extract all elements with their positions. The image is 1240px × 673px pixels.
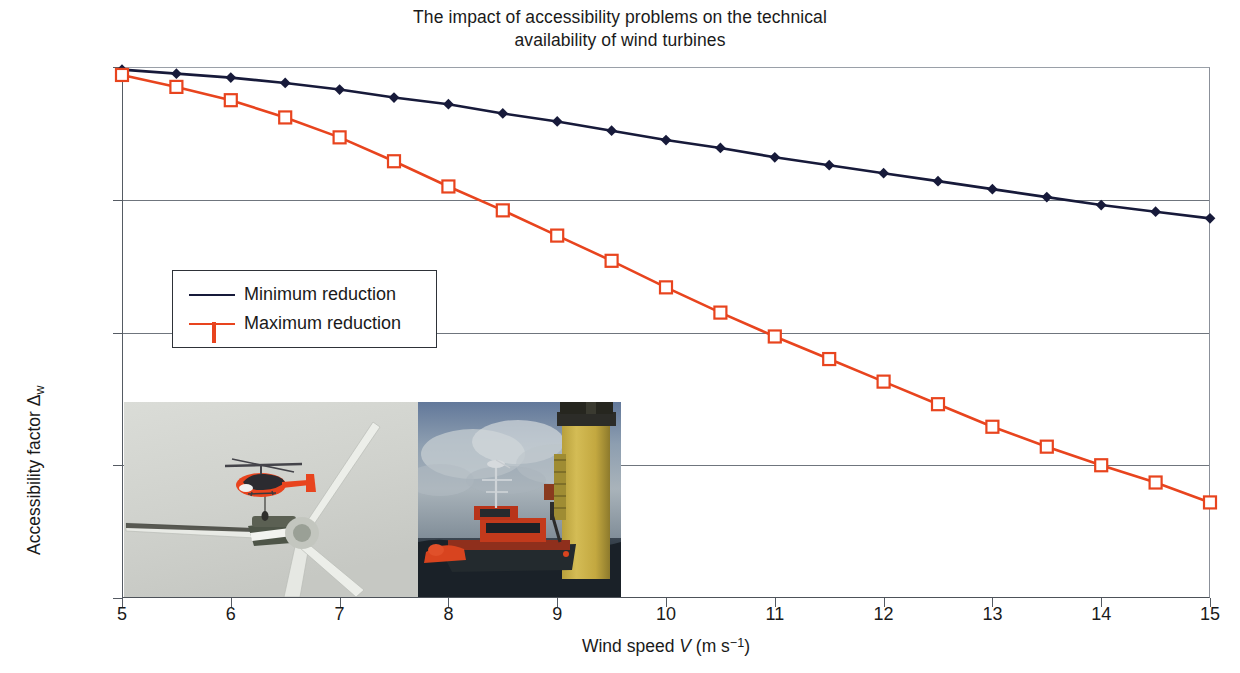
diamond-marker-icon xyxy=(715,143,726,154)
x-tick-mark xyxy=(122,598,123,607)
diamond-marker-icon xyxy=(1205,213,1216,224)
square-marker-icon xyxy=(334,131,346,143)
square-marker-icon xyxy=(442,180,454,192)
diamond-marker-icon xyxy=(1096,200,1107,211)
y-tick-mark xyxy=(113,598,122,599)
square-marker-icon xyxy=(606,255,618,267)
diamond-marker-icon xyxy=(661,135,672,146)
square-marker-icon xyxy=(388,155,400,167)
chart-title-line-2: availability of wind turbines xyxy=(0,29,1240,52)
square-marker-icon xyxy=(878,376,890,388)
square-marker-icon xyxy=(932,398,944,410)
chart-title: The impact of accessibility problems on … xyxy=(0,6,1240,52)
x-axis-title: Wind speed V (m s−1) xyxy=(122,636,1210,657)
square-marker-icon xyxy=(225,94,237,106)
x-tick-mark xyxy=(231,598,232,607)
x-tick-mark xyxy=(557,598,558,607)
legend-swatch-minimum xyxy=(189,285,235,305)
x-axis-unit-open: (m s xyxy=(691,636,730,656)
y-axis-title: Accessibility factor Δw xyxy=(24,55,47,555)
diamond-marker-icon xyxy=(171,68,182,79)
x-tick-label: 14 xyxy=(1071,604,1131,625)
x-tick-label: 7 xyxy=(310,604,370,625)
y-axis-title-subscript: w xyxy=(33,385,47,394)
x-tick-label: 8 xyxy=(418,604,478,625)
chart-figure: The impact of accessibility problems on … xyxy=(0,0,1240,673)
y-tick-mark xyxy=(113,333,122,334)
diamond-marker-icon xyxy=(987,184,998,195)
chart-title-line-1: The impact of accessibility problems on … xyxy=(0,6,1240,29)
x-tick-mark xyxy=(1101,598,1102,607)
square-marker-icon xyxy=(1204,496,1216,508)
x-tick-mark xyxy=(666,598,667,607)
x-tick-label: 11 xyxy=(745,604,805,625)
y-tick-mark xyxy=(113,465,122,466)
x-tick-label: 9 xyxy=(527,604,587,625)
square-marker-icon xyxy=(1095,459,1107,471)
diamond-marker-icon xyxy=(606,125,617,136)
diamond-marker-icon xyxy=(334,84,345,95)
square-marker-icon xyxy=(170,81,182,93)
y-axis-title-symbol: Δ xyxy=(24,395,44,407)
x-axis-title-variable: V xyxy=(679,636,691,656)
diamond-marker-icon xyxy=(933,176,944,187)
x-tick-mark xyxy=(448,598,449,607)
x-tick-mark xyxy=(884,598,885,607)
x-tick-label: 6 xyxy=(201,604,261,625)
diamond-marker-icon xyxy=(389,92,400,103)
legend-item-minimum-reduction[interactable]: Minimum reduction xyxy=(189,280,436,309)
x-axis-unit-close: ) xyxy=(744,636,750,656)
legend-label-minimum: Minimum reduction xyxy=(244,284,396,305)
square-marker-icon xyxy=(212,324,216,342)
x-tick-label: 5 xyxy=(92,604,152,625)
diamond-marker-icon xyxy=(1150,206,1161,217)
x-tick-mark xyxy=(992,598,993,607)
diamond-marker-icon xyxy=(552,116,563,127)
x-tick-label: 10 xyxy=(636,604,696,625)
diamond-marker-icon xyxy=(1041,192,1052,203)
square-marker-icon xyxy=(279,111,291,123)
square-marker-icon xyxy=(714,307,726,319)
legend-label-maximum: Maximum reduction xyxy=(244,313,401,334)
diamond-marker-icon xyxy=(225,72,236,83)
x-tick-mark xyxy=(340,598,341,607)
x-axis-unit-exponent: −1 xyxy=(730,636,744,650)
square-marker-icon xyxy=(1150,477,1162,489)
square-marker-icon xyxy=(551,230,563,242)
square-marker-icon xyxy=(769,330,781,342)
x-tick-label: 15 xyxy=(1180,604,1240,625)
legend: Minimum reduction Maximum reduction xyxy=(172,270,437,348)
y-axis-title-text: Accessibility factor xyxy=(24,406,44,555)
square-marker-icon xyxy=(116,69,128,81)
diamond-marker-icon xyxy=(443,99,454,110)
square-marker-icon xyxy=(660,281,672,293)
legend-swatch-maximum xyxy=(189,314,235,334)
square-marker-icon xyxy=(1041,441,1053,453)
diamond-marker-icon xyxy=(769,152,780,163)
diamond-marker-icon xyxy=(497,108,508,119)
square-marker-icon xyxy=(823,353,835,365)
legend-item-maximum-reduction[interactable]: Maximum reduction xyxy=(189,309,436,338)
diamond-marker-icon xyxy=(280,78,291,89)
square-marker-icon xyxy=(986,421,998,433)
series-minimum-reduction xyxy=(117,64,1216,223)
x-axis-title-text: Wind speed xyxy=(582,636,679,656)
x-tick-label: 12 xyxy=(854,604,914,625)
x-tick-mark xyxy=(1210,598,1211,607)
diamond-marker-icon xyxy=(824,160,835,171)
diamond-marker-icon xyxy=(878,168,889,179)
y-tick-mark xyxy=(113,200,122,201)
legend-line-navy xyxy=(189,294,235,296)
x-tick-label: 13 xyxy=(962,604,1022,625)
square-marker-icon xyxy=(497,204,509,216)
x-tick-mark xyxy=(775,598,776,607)
